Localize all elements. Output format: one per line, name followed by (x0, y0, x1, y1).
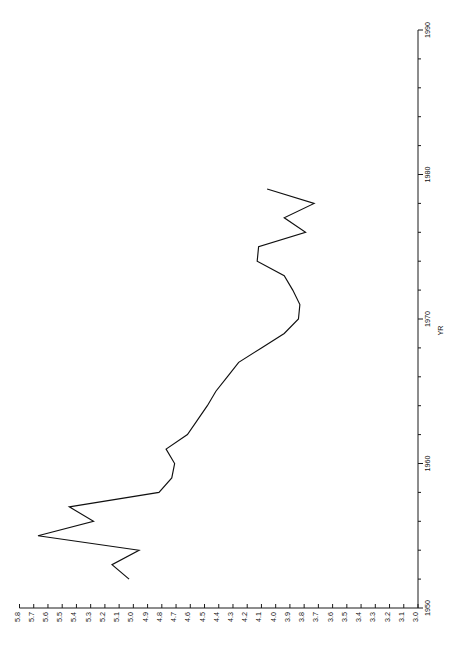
value-tick-label: 4.9 (141, 612, 150, 622)
value-tick-label: 3.0 (411, 612, 420, 622)
year-tick-label: 1990 (423, 22, 432, 38)
value-tick-label: 3.9 (283, 612, 292, 622)
line-chart: 5.85.75.65.55.45.35.25.15.04.94.84.74.64… (0, 0, 455, 650)
year-axis: 19501960197019801990 (418, 22, 432, 616)
value-tick-label: 5.1 (112, 612, 121, 622)
series-polyline (38, 189, 314, 579)
value-tick-label: 5.7 (27, 612, 36, 622)
value-tick-label: 4.4 (212, 612, 221, 622)
value-tick-label: 4.5 (198, 612, 207, 622)
value-tick-label: 3.8 (297, 612, 306, 622)
value-tick-label: 4.3 (226, 612, 235, 622)
year-tick-label: 1980 (423, 167, 432, 183)
value-axis: 5.85.75.65.55.45.35.25.15.04.94.84.74.64… (13, 604, 421, 622)
year-axis-title: YR (436, 326, 445, 336)
value-tick-label: 5.2 (98, 612, 107, 622)
value-tick-label: 4.0 (269, 612, 278, 622)
value-tick-label: 3.6 (326, 612, 335, 622)
value-tick-label: 5.6 (41, 612, 50, 622)
year-tick-label: 1970 (423, 311, 432, 327)
value-tick-label: 4.2 (240, 612, 249, 622)
value-tick-label: 4.6 (183, 612, 192, 622)
chart-canvas: 5.85.75.65.55.45.35.25.15.04.94.84.74.64… (0, 0, 455, 650)
value-tick-label: 5.4 (69, 612, 78, 622)
value-tick-label: 5.8 (13, 612, 22, 622)
value-tick-label: 3.4 (354, 612, 363, 622)
axis-labels: YR (436, 326, 445, 336)
year-tick-label: 1960 (423, 456, 432, 472)
value-tick-label: 4.1 (254, 612, 263, 622)
value-tick-label: 3.3 (368, 612, 377, 622)
year-tick-label: 1950 (423, 600, 432, 616)
data-series-line (38, 189, 314, 579)
value-tick-label: 4.7 (169, 612, 178, 622)
value-tick-label: 3.2 (383, 612, 392, 622)
value-tick-label: 3.5 (340, 612, 349, 622)
value-tick-label: 3.7 (311, 612, 320, 622)
value-tick-label: 3.1 (397, 612, 406, 622)
value-tick-label: 4.8 (155, 612, 164, 622)
value-tick-label: 5.5 (55, 612, 64, 622)
value-tick-label: 5.0 (126, 612, 135, 622)
value-tick-label: 5.3 (84, 612, 93, 622)
